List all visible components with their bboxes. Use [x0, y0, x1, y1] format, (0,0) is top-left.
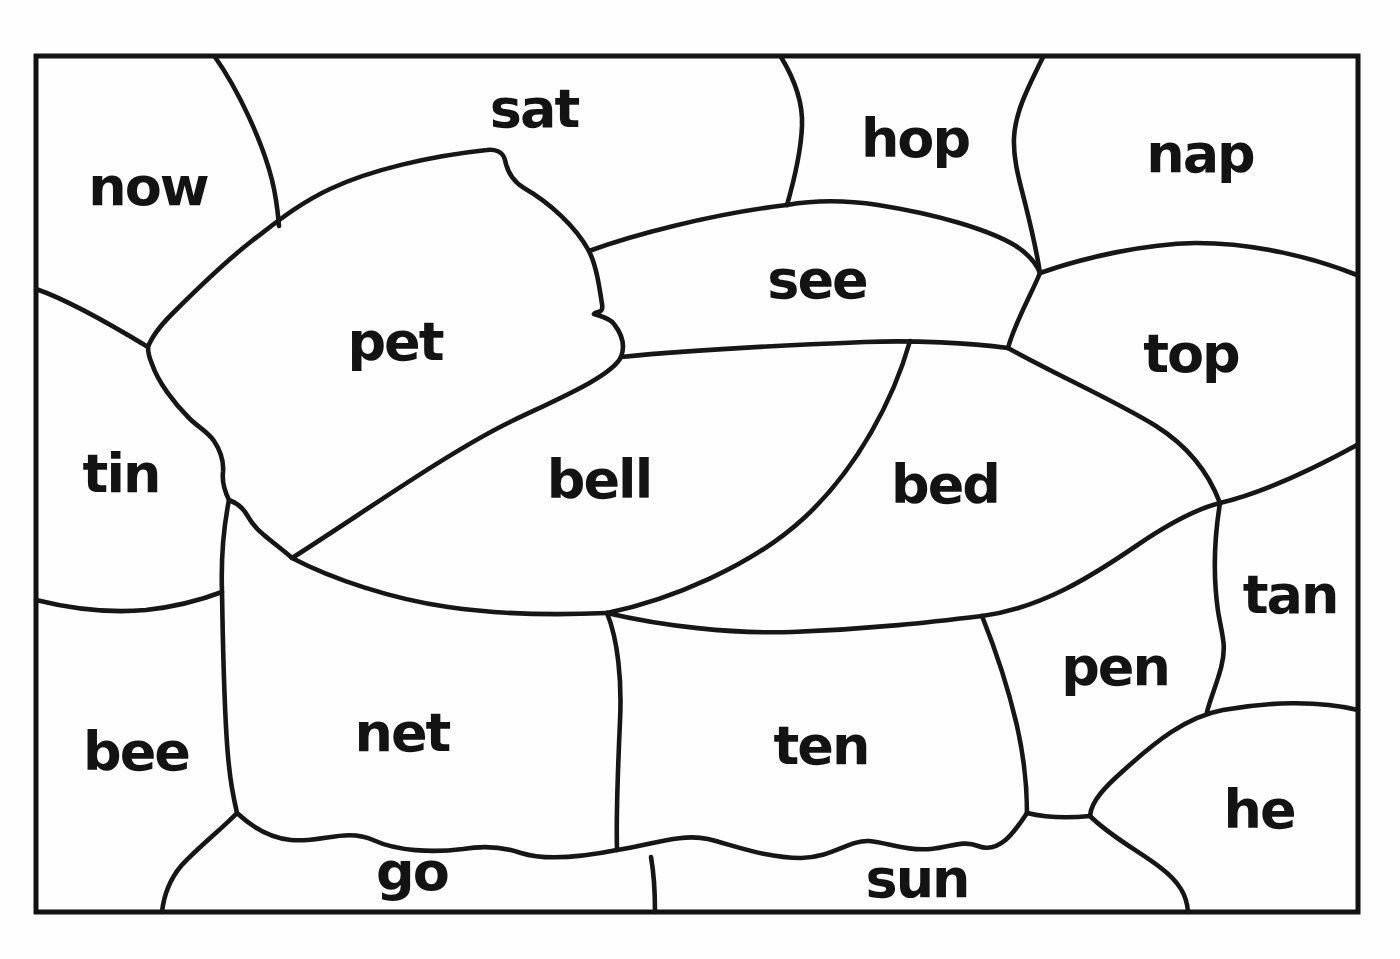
region-label-pet: pet: [347, 310, 443, 373]
outline-net-left-edge: [222, 500, 237, 813]
region-label-he: he: [1223, 778, 1294, 841]
region-label-ten: ten: [774, 714, 869, 777]
outline-divider-sat-see: [589, 205, 787, 251]
outline-divider-tin-bee: [36, 592, 222, 611]
outline-divider-pen-tan: [1207, 503, 1224, 712]
region-label-nap: nap: [1146, 122, 1254, 185]
region-label-sun: sun: [865, 847, 968, 910]
region-label-tan: tan: [1243, 563, 1338, 626]
region-label-hop: hop: [861, 107, 970, 170]
region-label-bed: bed: [891, 453, 999, 516]
region-label-top: top: [1143, 322, 1239, 385]
outline-divider-now-sat: [215, 57, 279, 226]
outline-top-region-upper-edge: [1040, 243, 1357, 275]
outline-top-region-left-edge: [1008, 273, 1040, 348]
region-label-bee: bee: [83, 720, 189, 783]
region-label-see: see: [767, 248, 867, 311]
outline-divider-now-tin: [36, 289, 148, 347]
word-puzzle-drawing: now sat hop nap pet see top tin bell bed…: [0, 0, 1400, 959]
outline-mattress-top-edge: [621, 341, 1008, 357]
region-label-sat: sat: [490, 77, 580, 140]
outline-divider-hop-sat: [781, 57, 802, 205]
outline-divider-bell-bed: [607, 341, 910, 613]
region-label-bell: bell: [547, 448, 651, 511]
worksheet-page: now sat hop nap pet see top tin bell bed…: [0, 0, 1400, 959]
region-label-net: net: [355, 701, 451, 764]
outline-divider-sun-he: [1090, 816, 1188, 912]
region-label-tin: tin: [83, 442, 160, 505]
region-outlines: [36, 57, 1358, 912]
outline-pen-bottom-edge: [1027, 813, 1090, 817]
outline-divider-hop-nap: [1014, 57, 1043, 273]
outline-net-top-edge: [292, 558, 607, 614]
outline-divider-bee-go: [162, 813, 237, 912]
region-label-now: now: [88, 155, 209, 218]
outline-divider-ten-pen: [982, 616, 1027, 813]
region-label-go: go: [376, 840, 448, 903]
outline-divider-go-sun: [651, 857, 655, 912]
region-label-pen: pen: [1061, 635, 1169, 698]
outline-mattress-bottom-edge: [607, 503, 1220, 632]
region-labels: now sat hop nap pet see top tin bell bed…: [83, 77, 1338, 910]
outline-divider-net-ten: [607, 613, 620, 850]
